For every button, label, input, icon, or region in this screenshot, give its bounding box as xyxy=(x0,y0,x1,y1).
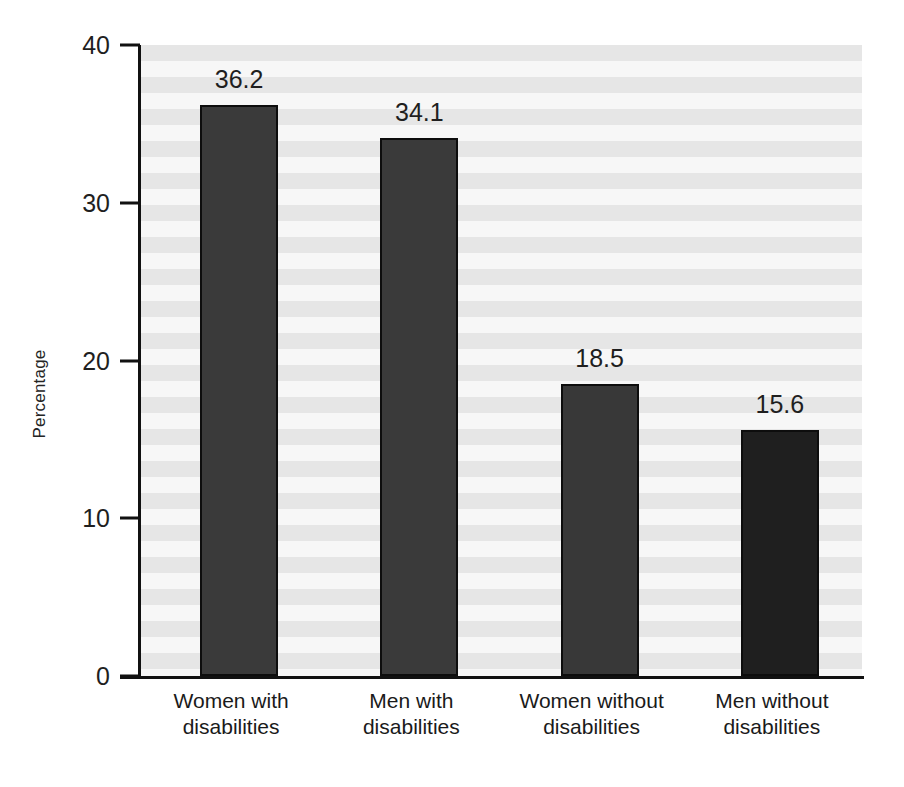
y-tick-label: 0 xyxy=(52,664,110,689)
y-tick-mark xyxy=(120,44,140,47)
y-tick-mark xyxy=(120,517,140,520)
bar[interactable] xyxy=(561,384,639,676)
bar-chart: Percentage 010203040 36.234.118.515.6 Wo… xyxy=(0,0,904,787)
bar[interactable] xyxy=(741,430,819,676)
x-category-label-line: disabilities xyxy=(127,714,335,740)
plot-area: 36.234.118.515.6 xyxy=(141,45,862,676)
y-tick-label: 20 xyxy=(52,348,110,373)
bar-value-label: 15.6 xyxy=(721,392,839,417)
bar[interactable] xyxy=(200,105,278,676)
x-axis-line xyxy=(120,676,864,679)
x-category-label: Men withoutdisabilities xyxy=(668,688,876,739)
y-axis-tick-labels: 010203040 xyxy=(52,0,110,787)
y-tick-mark xyxy=(120,359,140,362)
bar-value-label: 36.2 xyxy=(180,67,298,92)
y-axis-tick-marks xyxy=(120,0,140,787)
x-category-label: Women withdisabilities xyxy=(127,688,335,739)
y-axis-title-text: Percentage xyxy=(30,349,50,438)
y-tick-label: 10 xyxy=(52,506,110,531)
y-tick-label: 40 xyxy=(52,33,110,58)
y-tick-mark xyxy=(120,201,140,204)
x-category-label-line: Women without xyxy=(519,689,663,712)
x-axis-category-labels: Women withdisabilitiesMen withdisabiliti… xyxy=(141,688,862,768)
x-category-label-line: Women with xyxy=(174,689,289,712)
x-category-label: Men withdisabilities xyxy=(307,688,515,739)
x-category-label-line: disabilities xyxy=(488,714,696,740)
bar[interactable] xyxy=(380,138,458,676)
x-category-label-line: Men without xyxy=(715,689,828,712)
x-category-label-line: Men with xyxy=(369,689,453,712)
x-category-label-line: disabilities xyxy=(668,714,876,740)
y-tick-label: 30 xyxy=(52,190,110,215)
x-category-label: Women withoutdisabilities xyxy=(488,688,696,739)
bar-value-label: 34.1 xyxy=(360,100,478,125)
bar-value-label: 18.5 xyxy=(541,346,659,371)
x-category-label-line: disabilities xyxy=(307,714,515,740)
